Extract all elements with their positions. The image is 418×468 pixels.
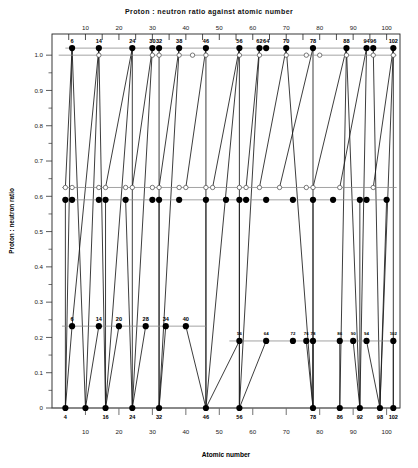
data-point-open[interactable] — [150, 185, 154, 189]
data-point-filled[interactable] — [357, 197, 363, 203]
data-point-open[interactable] — [123, 185, 127, 189]
data-point-filled[interactable] — [183, 323, 189, 329]
data-point-filled[interactable] — [163, 323, 169, 329]
data-point-label: 20 — [116, 316, 122, 322]
data-point-open[interactable] — [157, 53, 161, 57]
data-point-filled[interactable] — [203, 405, 209, 411]
data-point-filled[interactable] — [96, 45, 102, 51]
data-point-open[interactable] — [177, 53, 181, 57]
data-point-filled[interactable] — [337, 338, 343, 344]
data-point-open[interactable] — [97, 185, 101, 189]
data-point-label: 64 — [264, 331, 269, 336]
data-point-filled[interactable] — [310, 405, 316, 411]
data-point-open[interactable] — [210, 185, 214, 189]
data-point-open[interactable] — [237, 185, 241, 189]
data-point-open[interactable] — [317, 53, 321, 57]
data-point-filled[interactable] — [69, 197, 75, 203]
data-point-filled[interactable] — [303, 338, 309, 344]
data-point-open[interactable] — [63, 185, 67, 189]
data-point-filled[interactable] — [69, 45, 75, 51]
data-point-filled[interactable] — [243, 197, 249, 203]
data-point-filled[interactable] — [203, 197, 209, 203]
data-point-open[interactable] — [338, 185, 342, 189]
data-point-filled[interactable] — [390, 45, 396, 51]
data-point-filled[interactable] — [236, 405, 242, 411]
data-point-filled[interactable] — [310, 338, 316, 344]
data-point-filled[interactable] — [129, 405, 135, 411]
data-point-open[interactable] — [184, 185, 188, 189]
data-point-filled[interactable] — [69, 323, 75, 329]
data-point-filled[interactable] — [310, 45, 316, 51]
data-point-filled[interactable] — [176, 197, 182, 203]
data-point-filled[interactable] — [357, 405, 363, 411]
data-point-filled[interactable] — [156, 45, 162, 51]
data-point-filled[interactable] — [62, 405, 68, 411]
data-point-filled[interactable] — [290, 338, 296, 344]
data-point-open[interactable] — [257, 185, 261, 189]
data-point-filled[interactable] — [377, 405, 383, 411]
data-point-filled[interactable] — [62, 197, 68, 203]
data-point-open[interactable] — [344, 53, 348, 57]
data-point-open[interactable] — [97, 53, 101, 57]
data-point-open[interactable] — [103, 185, 107, 189]
data-point-filled[interactable] — [290, 197, 296, 203]
data-point-filled[interactable] — [263, 338, 269, 344]
data-point-filled[interactable] — [310, 197, 316, 203]
data-point-filled[interactable] — [363, 197, 369, 203]
data-point-open[interactable] — [190, 53, 194, 57]
data-point-filled[interactable] — [156, 197, 162, 203]
data-point-filled[interactable] — [223, 197, 229, 203]
data-point-filled[interactable] — [129, 45, 135, 51]
data-point-filled[interactable] — [337, 405, 343, 411]
data-point-open[interactable] — [277, 185, 281, 189]
data-point-open[interactable] — [157, 185, 161, 189]
data-point-filled[interactable] — [363, 338, 369, 344]
data-point-filled[interactable] — [236, 45, 242, 51]
data-point-open[interactable] — [244, 185, 248, 189]
data-point-filled[interactable] — [149, 197, 155, 203]
data-point-filled[interactable] — [82, 405, 88, 411]
data-point-filled[interactable] — [149, 45, 155, 51]
data-point-open[interactable] — [391, 53, 395, 57]
data-point-filled[interactable] — [236, 338, 242, 344]
data-point-filled[interactable] — [263, 197, 269, 203]
data-point-filled[interactable] — [363, 45, 369, 51]
data-point-open[interactable] — [150, 53, 154, 57]
data-point-open[interactable] — [371, 185, 375, 189]
data-point-open[interactable] — [371, 53, 375, 57]
data-point-filled[interactable] — [390, 338, 396, 344]
data-point-filled[interactable] — [343, 45, 349, 51]
data-point-filled[interactable] — [96, 323, 102, 329]
data-point-open[interactable] — [177, 185, 181, 189]
data-point-filled[interactable] — [116, 323, 122, 329]
data-point-filled[interactable] — [236, 197, 242, 203]
data-point-filled[interactable] — [102, 405, 108, 411]
connector-line — [99, 48, 106, 408]
data-point-open[interactable] — [311, 185, 315, 189]
data-point-open[interactable] — [204, 53, 208, 57]
data-point-open[interactable] — [70, 185, 74, 189]
data-point-filled[interactable] — [203, 45, 209, 51]
data-point-open[interactable] — [304, 185, 308, 189]
data-point-filled[interactable] — [123, 197, 129, 203]
data-point-filled[interactable] — [96, 197, 102, 203]
data-point-open[interactable] — [237, 53, 241, 57]
data-point-filled[interactable] — [370, 45, 376, 51]
data-point-open[interactable] — [304, 53, 308, 57]
data-point-filled[interactable] — [156, 405, 162, 411]
data-point-filled[interactable] — [143, 323, 149, 329]
data-point-filled[interactable] — [350, 338, 356, 344]
data-point-open[interactable] — [130, 185, 134, 189]
data-point-filled[interactable] — [176, 45, 182, 51]
data-point-filled[interactable] — [283, 45, 289, 51]
data-point-open[interactable] — [204, 185, 208, 189]
data-point-filled[interactable] — [256, 45, 262, 51]
data-point-open[interactable] — [284, 53, 288, 57]
data-point-filled[interactable] — [384, 197, 390, 203]
data-point-label: 94 — [364, 331, 369, 336]
data-point-filled[interactable] — [263, 45, 269, 51]
data-point-open[interactable] — [257, 53, 261, 57]
data-point-filled[interactable] — [330, 197, 336, 203]
data-point-filled[interactable] — [102, 197, 108, 203]
data-point-filled[interactable] — [390, 405, 396, 411]
